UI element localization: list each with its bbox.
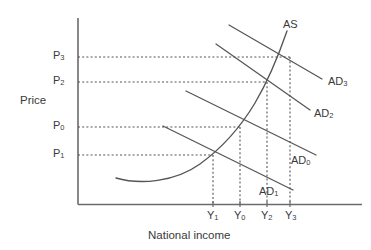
ad2-subscript: 2	[329, 111, 333, 120]
ad1-text: AD	[259, 185, 274, 197]
ad1-subscript: 1	[274, 189, 278, 198]
p0-subscript: 0	[60, 123, 64, 132]
y2-subscript: 2	[268, 213, 272, 222]
as-curve	[116, 31, 287, 181]
x-tick-label-y0: Y0	[234, 210, 246, 221]
as-curve-label: AS	[283, 19, 298, 30]
y1-subscript: 1	[214, 213, 218, 222]
ad3-text: AD	[328, 75, 343, 87]
ad3-curve-label: AD3	[328, 76, 347, 87]
p3-subscript: 3	[60, 53, 64, 62]
y-tick-label-p1: P1	[53, 148, 65, 159]
as-ad-chart: Price P3 P2 P0 P1 Y1 Y0 Y2 Y3 National i…	[0, 0, 371, 250]
ad1-curve-label: AD1	[259, 186, 278, 197]
x-tick-label-y3: Y3	[285, 210, 297, 221]
ad0-curve-label: AD0	[291, 155, 310, 166]
x-tick-label-y2: Y2	[261, 210, 273, 221]
p2-subscript: 2	[60, 78, 64, 87]
ad0-subscript: 0	[306, 158, 310, 167]
ad3-subscript: 3	[343, 79, 347, 88]
y-tick-label-p3: P3	[53, 50, 65, 61]
y3-subscript: 3	[292, 213, 296, 222]
y-axis-title: Price	[20, 95, 46, 107]
price-guide-lines	[78, 57, 290, 155]
ad1-curve	[163, 126, 293, 190]
ad0-text: AD	[291, 154, 306, 166]
y-tick-label-p2: P2	[53, 75, 65, 86]
y0-subscript: 0	[241, 213, 245, 222]
ad2-text: AD	[314, 107, 329, 119]
p1-subscript: 1	[60, 151, 64, 160]
ad3-curve	[229, 25, 322, 79]
x-tick-label-y1: Y1	[207, 210, 219, 221]
y-tick-label-p0: P0	[53, 120, 65, 131]
ad2-curve-label: AD2	[314, 108, 333, 119]
x-axis-title: National income	[148, 230, 230, 242]
ad2-curve	[216, 44, 310, 110]
